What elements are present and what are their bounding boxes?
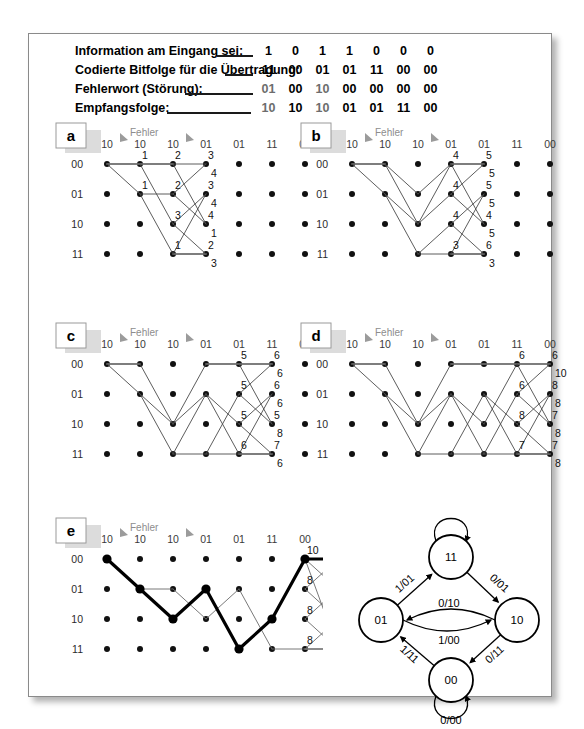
path-metric-value: 6 bbox=[274, 379, 280, 391]
path-metric-value-alt: 3 bbox=[211, 257, 217, 269]
path-metric-value-alt: 5 bbox=[489, 197, 495, 209]
fehler-arrow-icon bbox=[365, 333, 373, 342]
trellis-svg-c: cFehler101010010111000001101155566666587… bbox=[55, 322, 323, 482]
trellis-node bbox=[170, 391, 176, 397]
legend-value: 0 bbox=[363, 44, 390, 58]
trellis-svg-a: aFehler101010010111000001101111223134344… bbox=[55, 122, 323, 282]
survivor-path bbox=[107, 559, 323, 649]
path-metric-value: 8 bbox=[519, 409, 525, 421]
transition-label: 1/11 bbox=[398, 643, 421, 666]
trellis-node bbox=[382, 221, 388, 227]
trellis-edge bbox=[451, 394, 484, 424]
legend-value: 01 bbox=[255, 82, 282, 96]
trellis-node bbox=[349, 451, 355, 457]
legend-value: 10 bbox=[282, 101, 309, 115]
legend-value: 1 bbox=[336, 44, 363, 58]
legend-block: Information am Eingang sei: 1011000 Codi… bbox=[75, 44, 535, 120]
path-metric-value: 3 bbox=[208, 179, 214, 191]
trellis-edge bbox=[140, 394, 173, 424]
path-metric-value: 10 bbox=[307, 544, 319, 556]
state-diagram-svg: 1/101/010/010/101/001/110/110/0011011000 bbox=[329, 512, 559, 727]
path-metric-value-alt: 6 bbox=[277, 367, 283, 379]
state-row-label: 00 bbox=[71, 158, 83, 170]
legend-value: 00 bbox=[336, 82, 363, 96]
path-metric-value: 4 bbox=[486, 209, 492, 221]
trellis-node bbox=[514, 191, 520, 197]
trellis-node bbox=[104, 586, 110, 592]
trellis-node bbox=[104, 251, 110, 257]
path-metric-value-alt: 6 bbox=[277, 457, 283, 469]
trellis-node bbox=[547, 221, 553, 227]
path-metric-value: 2 bbox=[175, 149, 181, 161]
received-symbol-header: 10 bbox=[101, 138, 113, 150]
trellis-edge bbox=[173, 394, 206, 424]
trellis-svg-d: dFehler101010010111000001101166876108878… bbox=[300, 322, 568, 482]
path-metric-value: 6 bbox=[519, 349, 525, 361]
survivor-path-node bbox=[168, 614, 177, 623]
trellis-node bbox=[448, 421, 454, 427]
path-metric-value: 6 bbox=[519, 379, 525, 391]
path-metric-value: 1 bbox=[175, 239, 181, 251]
legend-value: 1 bbox=[255, 44, 282, 58]
received-symbol-header: 10 bbox=[379, 138, 391, 150]
trellis-node bbox=[137, 616, 143, 622]
fehler-arrow-icon bbox=[186, 333, 194, 342]
received-symbol-header: 10 bbox=[101, 338, 113, 350]
trellis-node bbox=[349, 421, 355, 427]
received-symbol-header: 10 bbox=[134, 533, 146, 545]
state-row-label: 10 bbox=[316, 418, 328, 430]
legend-value: 10 bbox=[255, 101, 282, 115]
trellis-node bbox=[269, 251, 275, 257]
received-symbol-header: 11 bbox=[267, 533, 278, 545]
legend-values-information: 1011000 bbox=[255, 44, 517, 58]
trellis-edge bbox=[385, 194, 418, 254]
figure-frame: Information am Eingang sei: 1011000 Codi… bbox=[28, 33, 552, 697]
trellis-edge bbox=[418, 224, 451, 254]
trellis-node bbox=[269, 221, 275, 227]
fehler-label: Fehler bbox=[130, 522, 159, 533]
legend-leader-rule bbox=[167, 112, 251, 114]
fehler-arrow-icon bbox=[120, 133, 128, 142]
fehler-arrow-icon bbox=[120, 528, 128, 537]
legend-value: 00 bbox=[390, 82, 417, 96]
path-metric-value-alt: 10 bbox=[555, 367, 567, 379]
received-symbol-header: 01 bbox=[445, 338, 457, 350]
received-symbol-header: 01 bbox=[478, 338, 490, 350]
state-row-label: 01 bbox=[316, 388, 328, 400]
transition-label: 1/00 bbox=[438, 634, 459, 646]
trellis-edge bbox=[206, 589, 239, 619]
received-symbol-header: 01 bbox=[200, 533, 212, 545]
fehler-arrow-icon bbox=[120, 333, 128, 342]
state-row-label: 00 bbox=[316, 358, 328, 370]
trellis-node bbox=[514, 221, 520, 227]
transition-01-10 bbox=[403, 620, 491, 631]
trellis-edge bbox=[385, 164, 418, 224]
path-metric-value: 8 bbox=[552, 379, 558, 391]
trellis-node bbox=[269, 191, 275, 197]
trellis-edge bbox=[385, 394, 418, 454]
path-metric-value: 4 bbox=[208, 209, 214, 221]
transition-label: 0/10 bbox=[438, 597, 459, 609]
path-metric-value-alt: 8 bbox=[555, 427, 561, 439]
path-metric-value-alt: 8 bbox=[555, 457, 561, 469]
trellis-node bbox=[349, 221, 355, 227]
state-row-label: 01 bbox=[316, 188, 328, 200]
legend-row: Information am Eingang sei: 1011000 bbox=[75, 44, 535, 62]
legend-value: 11 bbox=[363, 63, 390, 77]
legend-values-coded-bitstream: 11000101110000 bbox=[255, 63, 517, 77]
trellis-svg-e: eFehler101010010111000001101110888128101… bbox=[55, 517, 323, 682]
state-row-label: 11 bbox=[72, 643, 83, 655]
legend-value: 10 bbox=[309, 82, 336, 96]
trellis-edge bbox=[173, 394, 206, 454]
state-row-label: 00 bbox=[71, 553, 83, 565]
path-metric-value-alt: 1 bbox=[211, 227, 217, 239]
trellis-edge bbox=[239, 589, 272, 649]
legend-value: 1 bbox=[309, 44, 336, 58]
state-row-label: 10 bbox=[316, 218, 328, 230]
trellis-node bbox=[269, 586, 275, 592]
legend-value: 10 bbox=[309, 101, 336, 115]
trellis-edge bbox=[107, 364, 140, 394]
path-metric-value: 6 bbox=[552, 349, 558, 361]
trellis-node bbox=[236, 221, 242, 227]
trellis-node bbox=[137, 646, 143, 652]
